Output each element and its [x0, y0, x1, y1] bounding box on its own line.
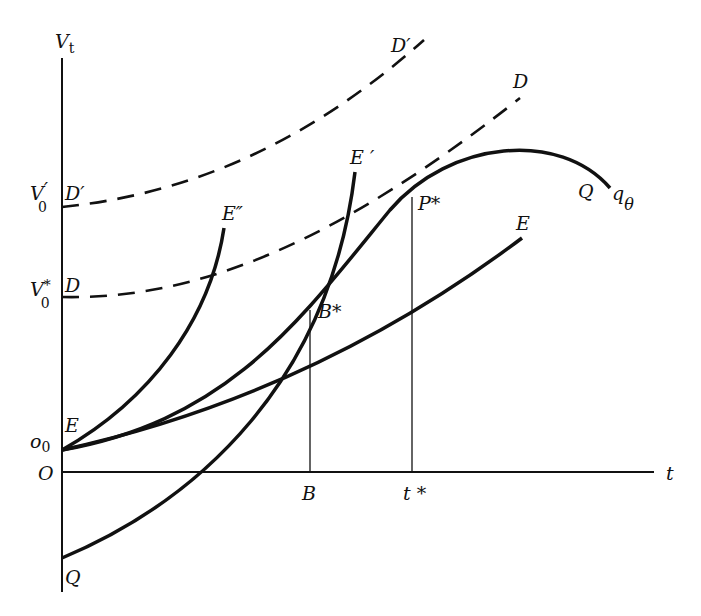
e-end-label: E	[515, 212, 530, 234]
e-prime-label: E ′	[349, 146, 375, 168]
x-axis-label: t	[666, 462, 674, 484]
d-curve	[62, 98, 520, 297]
d-prime-curve	[62, 40, 424, 207]
e-double-prime-curve	[62, 228, 224, 450]
e-start-label: E	[64, 414, 79, 436]
o0-label: o0	[30, 430, 50, 455]
q-end-label: Q	[578, 180, 594, 202]
b-star-label: B*	[317, 300, 342, 322]
economics-diagram: Vt t O V′0 V*0 o0 B t * D′ D′ D D E E E …	[0, 0, 701, 616]
v0-star-label: V*0	[30, 277, 51, 311]
d-end-label: D	[512, 70, 528, 92]
d-start-label: D	[64, 274, 80, 296]
origin-label: O	[38, 462, 54, 484]
y-axis-label: Vt	[55, 30, 75, 56]
e-double-prime-label: E″	[221, 202, 243, 224]
v0-prime-label: V′0	[30, 178, 49, 215]
q-theta-label: qθ	[612, 182, 634, 214]
q-start-label: Q	[65, 566, 81, 588]
t-star-label: t *	[403, 482, 427, 504]
p-star-label: P*	[417, 192, 441, 214]
d-prime-start-label: D′	[64, 182, 85, 204]
d-prime-end-label: D′	[390, 34, 411, 56]
b-label: B	[301, 482, 316, 504]
e-curve	[62, 238, 522, 450]
